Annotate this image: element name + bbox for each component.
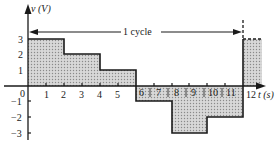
x-tick-9: 9 <box>191 87 196 98</box>
y-tick-2: 2 <box>18 49 23 60</box>
cycle-arrow-left-icon <box>29 29 38 35</box>
cycle-arrow-right-icon <box>233 29 242 35</box>
x-tick-1: 1 <box>44 89 49 100</box>
cycle-label: 1 cycle <box>123 26 152 37</box>
y-tick-1: 1 <box>18 65 23 76</box>
positive-area <box>28 39 136 86</box>
x-tick-6: 6 <box>139 87 144 98</box>
cycle-annotation: 1 cycle <box>29 20 243 39</box>
x-tick-2: 2 <box>61 89 66 100</box>
x-tick-4: 4 <box>97 89 102 100</box>
x-tick-7: 7 <box>156 87 161 98</box>
x-tick-12: 12 <box>246 89 256 100</box>
y-tick-3: 3 <box>18 34 23 45</box>
x-tick-8: 8 <box>174 87 179 98</box>
x-tick-10: 10 <box>208 87 218 98</box>
waveform-diagram: 1 2 3 4 5 6 7 8 9 10 11 12 t (s) v (V) 3… <box>0 0 276 144</box>
y-tick-neg2: −2 <box>11 112 22 123</box>
x-tick-3: 3 <box>79 89 84 100</box>
next-cycle-area <box>243 39 262 86</box>
x-axis-label: t (s) <box>258 89 275 101</box>
x-tick-5: 5 <box>115 89 120 100</box>
y-axis-label: v (V) <box>31 3 51 15</box>
x-tick-11: 11 <box>226 87 236 98</box>
y-tick-neg1: −1 <box>11 96 22 107</box>
y-tick-neg3: −3 <box>11 128 22 139</box>
